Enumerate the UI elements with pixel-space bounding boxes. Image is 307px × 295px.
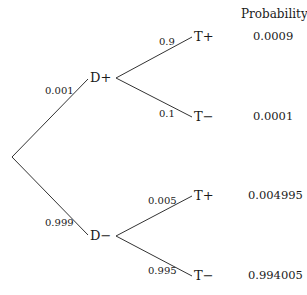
edge-label-0-005: 0.005 [148,196,177,206]
edge-label-0-001: 0.001 [45,86,74,96]
node-t-minus-upper: T− [194,110,214,123]
edge-label-0-1: 0.1 [159,109,175,119]
edge-d-plus-t-plus [116,37,192,78]
edge-label-0-9: 0.9 [159,37,175,47]
probability-value: 0.004995 [248,190,303,202]
edge-d-plus-t-minus [116,78,192,117]
probability-header: Probability [241,8,307,20]
probability-value: 0.0009 [253,31,293,43]
probability-value: 0.994005 [248,270,303,282]
tree-lines [0,0,307,295]
edge-label-0-995: 0.995 [148,266,177,276]
edge-label-0-999: 0.999 [45,218,74,228]
probability-value: 0.0001 [253,111,293,123]
node-t-minus-lower: T− [194,269,214,282]
node-d-minus: D− [90,229,111,242]
node-t-plus-lower: T+ [194,189,214,202]
node-d-plus: D+ [90,71,111,84]
node-t-plus-upper: T+ [194,30,214,43]
